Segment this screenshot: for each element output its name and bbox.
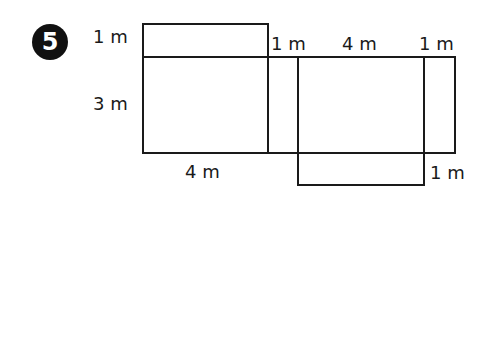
- side-face-left-rect: [267, 56, 299, 154]
- problem-number-badge: 5: [32, 24, 68, 60]
- bottom-flap-rect: [297, 152, 425, 186]
- front-height-label: 3 m: [93, 95, 128, 113]
- front-width-label: 4 m: [185, 163, 220, 181]
- back-width-label: 4 m: [342, 35, 377, 53]
- problem-number: 5: [42, 28, 59, 56]
- top-flap-rect: [142, 23, 269, 58]
- top-flap-height-label: 1 m: [93, 28, 128, 46]
- side-face-right-rect: [423, 56, 456, 154]
- right-side-width-label: 1 m: [419, 35, 454, 53]
- left-side-width-label: 1 m: [271, 35, 306, 53]
- front-face-rect: [142, 56, 269, 154]
- bottom-flap-height-label: 1 m: [430, 164, 465, 182]
- back-face-rect: [297, 56, 425, 154]
